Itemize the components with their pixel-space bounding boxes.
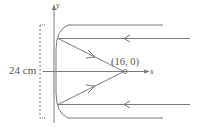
- ray-bottom-inner-reflected: [58, 72, 124, 105]
- focus-label: (16, 0): [111, 57, 139, 68]
- arrowhead-bottom-reflected: [86, 85, 95, 93]
- mirror-diagram: 24 cm (16, 0) x y: [0, 0, 202, 128]
- arrowhead-top-reflected: [86, 50, 95, 58]
- y-axis-label: y: [56, 2, 60, 10]
- dimension-label: 24 cm: [9, 65, 36, 76]
- x-axis-label: x: [150, 68, 154, 76]
